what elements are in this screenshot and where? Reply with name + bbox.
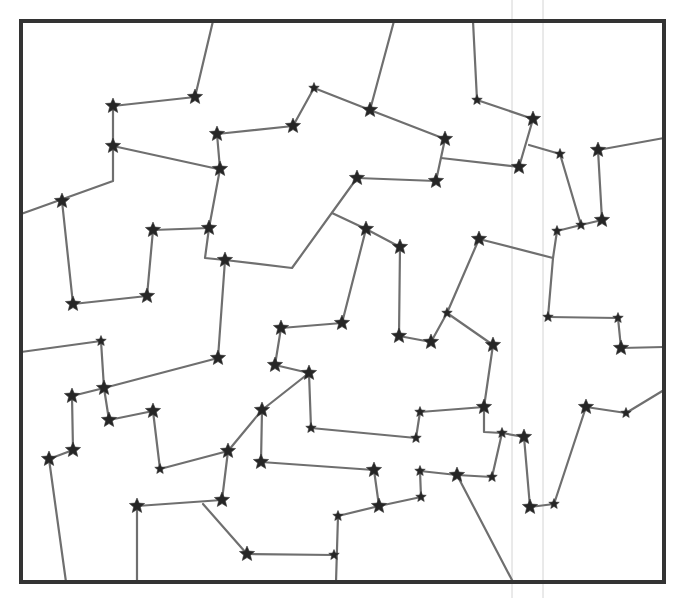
connection-line	[560, 154, 581, 225]
connection-line	[370, 21, 394, 110]
connection-line	[62, 201, 73, 304]
star-icon	[543, 312, 553, 322]
connection-line	[104, 358, 218, 388]
connection-line	[548, 231, 557, 317]
connection-line	[342, 229, 366, 323]
connection-line	[228, 410, 262, 451]
connection-line	[261, 462, 374, 470]
connection-line	[524, 437, 530, 507]
star-icon	[411, 433, 421, 443]
star-icon	[525, 111, 540, 125]
star-icon	[391, 328, 406, 342]
connection-line	[441, 158, 519, 167]
star-icon	[306, 423, 316, 433]
star-icon	[621, 408, 631, 418]
connection-line	[431, 313, 447, 342]
connection-line	[492, 433, 502, 477]
connection-line	[147, 230, 153, 296]
connection-line	[457, 475, 513, 582]
connection-line	[447, 313, 493, 345]
connection-line	[598, 138, 664, 150]
connection-line	[247, 554, 334, 555]
star-icon	[334, 315, 349, 329]
star-icon	[187, 89, 202, 103]
connection-line	[311, 428, 416, 438]
connection-line	[222, 451, 228, 500]
connection-line	[153, 411, 160, 469]
connection-line	[203, 504, 247, 554]
star-icon	[449, 467, 464, 481]
connection-line	[477, 100, 533, 119]
star-icon	[578, 399, 593, 413]
star-icon	[349, 170, 364, 184]
connection-line	[137, 500, 222, 506]
connection-line	[195, 21, 213, 97]
connection-line	[21, 341, 101, 352]
star-diagram-canvas	[0, 0, 680, 598]
connection-line	[21, 146, 113, 214]
connection-line	[262, 373, 309, 410]
star-icon	[428, 173, 443, 187]
star-icon	[416, 492, 426, 502]
connection-line	[598, 150, 602, 220]
connection-line	[626, 390, 664, 413]
connection-line	[420, 407, 484, 412]
star-icon	[253, 454, 268, 468]
connection-line	[217, 126, 293, 134]
connection-line	[309, 373, 311, 428]
connection-line	[113, 97, 195, 106]
star-icon	[471, 231, 486, 245]
star-icon	[65, 296, 80, 310]
connection-line	[160, 451, 228, 469]
star-icon	[214, 492, 229, 506]
star-icon	[267, 357, 282, 371]
connection-line	[621, 347, 664, 348]
connection-line	[49, 459, 66, 582]
star-icon	[210, 350, 225, 364]
star-icon	[511, 159, 526, 173]
star-icon	[487, 472, 497, 482]
connection-line	[479, 239, 553, 258]
connection-line	[586, 407, 626, 413]
connection-line	[153, 228, 209, 230]
star-icon	[101, 412, 116, 426]
connection-line	[73, 296, 147, 304]
star-icon	[423, 334, 438, 348]
star-icon	[576, 220, 586, 230]
star-icon	[522, 499, 537, 513]
connection-line	[548, 317, 618, 318]
connection-line	[399, 247, 400, 336]
star-icon	[371, 498, 386, 512]
connection-line	[484, 345, 493, 407]
connection-line	[554, 407, 586, 504]
star-icon	[594, 212, 609, 226]
connection-line	[209, 169, 220, 228]
connection-line	[447, 239, 479, 313]
connection-line	[336, 516, 338, 582]
connection-line	[473, 21, 477, 100]
connection-line	[357, 178, 436, 181]
star-icon	[549, 499, 559, 509]
connection-line	[205, 228, 225, 260]
connection-line	[218, 260, 225, 358]
star-icon	[65, 442, 80, 456]
connection-line	[225, 178, 357, 268]
connection-line	[338, 506, 379, 516]
connection-line	[519, 119, 533, 167]
star-icon	[309, 83, 319, 93]
connection-line	[113, 146, 218, 169]
star-icon	[139, 288, 154, 302]
star-icon	[613, 340, 628, 354]
star-icon	[362, 102, 377, 116]
star-icon	[155, 464, 165, 474]
connection-line	[281, 323, 342, 328]
star-icon	[472, 95, 482, 105]
connection-line	[293, 88, 314, 126]
connection-line	[314, 88, 370, 110]
connection-line	[370, 110, 445, 139]
star-icon	[285, 118, 300, 132]
